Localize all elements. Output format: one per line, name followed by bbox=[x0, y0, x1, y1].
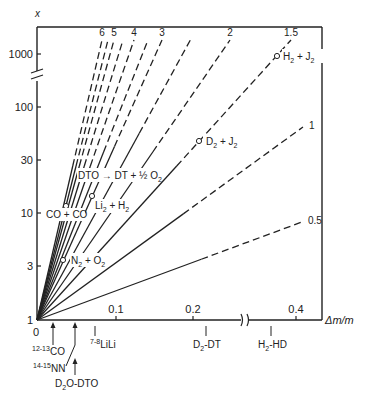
y-axis-label: x bbox=[34, 8, 41, 19]
y-axis-break bbox=[31, 69, 43, 79]
annotation-markers bbox=[60, 53, 279, 262]
x-axis-label: Δm/m bbox=[324, 314, 354, 326]
annotation-co-co: CO + CO bbox=[46, 209, 88, 220]
y-tick-label-100: 100 bbox=[15, 101, 33, 113]
marker-d2-dt: D2-DT bbox=[193, 339, 221, 352]
y-tick-label-3: 3 bbox=[27, 260, 33, 272]
chart: x 1000 100 30 10 3 1 0 0.1 0.2 0.4 Δm/m … bbox=[0, 0, 366, 399]
series-line-dashed bbox=[115, 40, 163, 146]
series-line-dashed bbox=[76, 40, 108, 166]
series-label: 6 bbox=[99, 27, 105, 38]
x-tick-label-0.4: 0.4 bbox=[288, 303, 303, 315]
series-label: 1 bbox=[309, 120, 315, 131]
series-label: 0.5 bbox=[308, 215, 322, 226]
series-line-dashed bbox=[139, 37, 192, 133]
y-tick-label-1: 1 bbox=[27, 314, 33, 326]
series-line-solid bbox=[37, 133, 139, 320]
y-tick-label-10: 10 bbox=[21, 207, 33, 219]
series-label: 5 bbox=[111, 27, 117, 38]
y-tick-label-1000: 1000 bbox=[9, 48, 33, 60]
series-label: 4 bbox=[131, 27, 137, 38]
series-line-dashed bbox=[90, 40, 134, 166]
x-tick-label-0: 0 bbox=[33, 326, 39, 338]
series-label: 3 bbox=[159, 27, 165, 38]
x-tick-label-0.1: 0.1 bbox=[108, 303, 123, 315]
series-line-solid bbox=[37, 166, 90, 320]
x-markers bbox=[51, 322, 272, 375]
y-tick-label-30: 30 bbox=[21, 154, 33, 166]
series-line-solid bbox=[37, 166, 84, 320]
x-tick-label-0.2: 0.2 bbox=[185, 303, 200, 315]
series-line-dashed bbox=[73, 40, 102, 166]
marker-lili: 7-8LiLi bbox=[90, 338, 116, 350]
marker-co: 12-13CO bbox=[32, 345, 65, 357]
marker-d2o-dto: D2O-DTO bbox=[55, 378, 98, 391]
marker-nn: 14-15NN bbox=[33, 362, 65, 374]
x-axis-break bbox=[241, 314, 249, 326]
marker-h2-hd: H2-HD bbox=[258, 339, 287, 352]
series-label: 2 bbox=[227, 27, 233, 38]
series-label: 1.5 bbox=[284, 27, 298, 38]
series-line-dashed bbox=[79, 40, 114, 166]
series-line-dashed bbox=[201, 222, 302, 259]
annotation-labels: H2 + J2 D2 + J2 DTO → DT + ½ O2 Li2 + H2… bbox=[45, 49, 324, 268]
series-line-dashed bbox=[104, 40, 148, 152]
